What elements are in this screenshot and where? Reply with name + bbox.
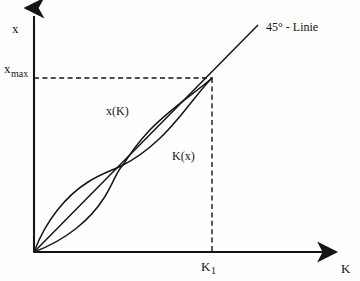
x-axis-label: K <box>341 262 350 275</box>
x-max-base: x <box>4 61 11 76</box>
k1-subscript: 1 <box>211 265 216 276</box>
k1-base: K <box>201 259 210 274</box>
curve-label-x-of-k: x(K) <box>106 105 129 117</box>
forty-five-degree-line <box>34 25 258 252</box>
k1-tick-label: K1 <box>201 260 216 276</box>
curve-label-k-of-x: K(x) <box>172 150 195 162</box>
x-max-subscript: max <box>11 68 28 79</box>
y-axis-label: x <box>12 22 19 35</box>
diagram-svg <box>0 0 360 281</box>
forty-five-degree-line-label: 45° - Linie <box>266 21 318 33</box>
x-max-tick-label: xmax <box>4 62 28 79</box>
figure-canvas: x K xmax K1 x(K) K(x) 45° - Linie <box>0 0 360 281</box>
